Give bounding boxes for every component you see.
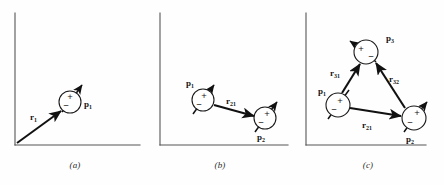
dipole-2-label: p2: [257, 132, 265, 143]
position-vector-r1: [17, 111, 61, 143]
vector-label-r21-sub: 21: [366, 125, 372, 131]
panel-c-caption: (c): [292, 160, 444, 170]
panel-c: r31 r32 r21 + − p3 +: [292, 0, 444, 185]
dipole-2-plus-sign: +: [414, 107, 420, 118]
dipole-1-minus-sign: −: [196, 99, 202, 110]
panel-a: r1 + − p1 (a): [0, 0, 150, 185]
dipole-1-label: p1: [84, 99, 92, 110]
dipole-3-label: p3: [386, 33, 394, 44]
dipole-1-label-sub: 1: [191, 83, 194, 89]
vector-label-r21: r21: [362, 120, 372, 131]
figure-root: r1 + − p1 (a): [0, 0, 444, 185]
panel-a-caption: (a): [0, 160, 150, 170]
vector-label-r21: r21: [226, 96, 236, 107]
vector-label-r21-sub: 21: [230, 101, 236, 107]
dipole-1-minus-sign: −: [331, 104, 337, 115]
dipole-3-label-sub: 3: [391, 38, 394, 44]
dipole-3-minus-sign: −: [368, 51, 374, 62]
panel-c-drawing: r31 r32 r21 + − p3 +: [292, 0, 444, 185]
dipole-2-label-sub: 2: [262, 137, 265, 143]
panel-b-drawing: r21 + − p1 + − p2: [146, 0, 294, 185]
vector-label-r31: r31: [330, 68, 340, 79]
vector-label-r32-sub: 32: [393, 79, 399, 85]
dipole-2-minus-sign: −: [258, 117, 264, 128]
panel-b: r21 + − p1 + − p2 (b): [146, 0, 294, 185]
dipole-2-minus-sign: −: [407, 117, 413, 128]
dipole-1-plus-sign: +: [337, 95, 343, 106]
dipole-1-plus-sign: +: [201, 90, 207, 101]
vector-label-r31-sub: 31: [334, 73, 340, 79]
dipole-1-label: p1: [318, 86, 326, 97]
panel-b-caption: (b): [146, 160, 294, 170]
dipole-2-label-sub: 2: [411, 139, 414, 145]
vector-label-r32: r32: [389, 74, 399, 85]
separation-vector-r31: [342, 64, 360, 93]
dipole-2-label: p2: [406, 134, 414, 145]
dipole-1-minus-sign: −: [63, 100, 69, 111]
dipole-1-label-sub: 1: [89, 104, 92, 110]
dipole-1-label: p1: [186, 78, 194, 89]
separation-vector-r21: [350, 108, 401, 116]
vector-label-r1: r1: [30, 112, 37, 123]
dipole-3-plus-sign: +: [358, 43, 364, 54]
dipole-2-plus-sign: +: [264, 108, 270, 119]
separation-vector-r32: [376, 63, 405, 108]
dipole-1-label-sub: 1: [323, 91, 326, 97]
vector-label-r1-sub: 1: [34, 117, 37, 123]
panel-a-drawing: r1 + − p1: [0, 0, 150, 185]
